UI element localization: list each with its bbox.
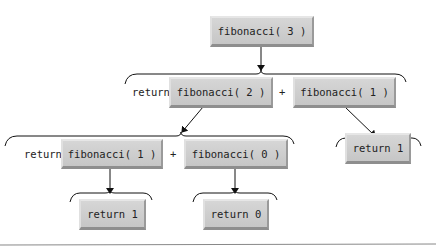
arrow-fib1-right bbox=[345, 107, 375, 136]
plus-label-row2: + bbox=[279, 86, 285, 98]
return-label-row2: return bbox=[132, 86, 170, 98]
node-return-0: return 0 bbox=[203, 199, 269, 230]
node-return-1-right: return 1 bbox=[345, 133, 411, 164]
fibonacci-recursion-diagram: fibonacci( 3 ) return fibonacci( 2 ) + f… bbox=[0, 0, 436, 247]
bottom-rule bbox=[0, 244, 436, 245]
node-fibonacci-0: fibonacci( 0 ) bbox=[184, 139, 288, 169]
node-return-1-left: return 1 bbox=[79, 199, 146, 230]
return-label-row3: return bbox=[24, 148, 62, 160]
node-fibonacci-1-left: fibonacci( 1 ) bbox=[61, 139, 163, 169]
plus-label-row3: + bbox=[170, 148, 176, 160]
node-fibonacci-2: fibonacci( 2 ) bbox=[169, 77, 273, 108]
node-fibonacci-1-top: fibonacci( 1 ) bbox=[293, 77, 396, 108]
node-fibonacci-3: fibonacci( 3 ) bbox=[210, 16, 314, 47]
arrow-fib2 bbox=[182, 107, 203, 132]
